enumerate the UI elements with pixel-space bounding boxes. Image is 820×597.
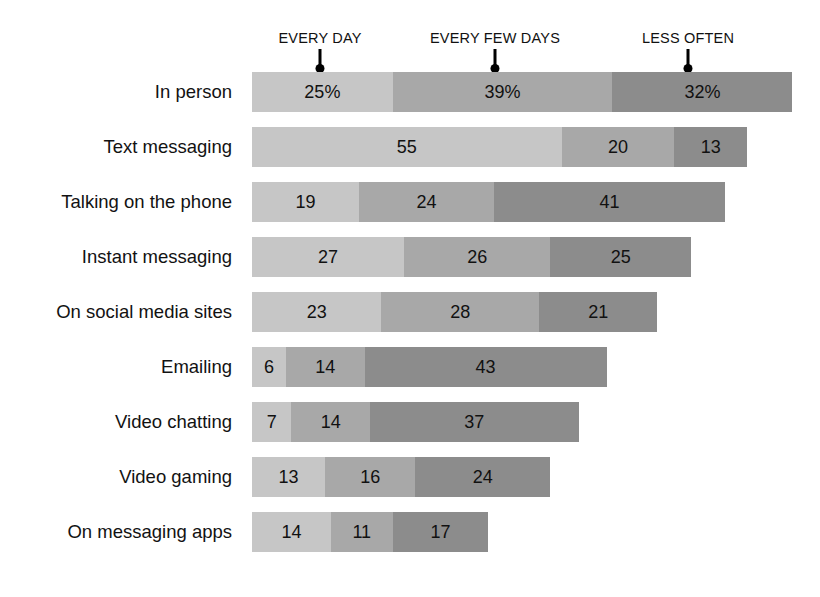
bar-segment-value: 32% [684,83,720,101]
stacked-bar: 552013 [252,127,747,167]
bar-segment-value: 25 [611,248,631,266]
row-label: On social media sites [0,292,242,332]
chart-row: Video chatting71437 [0,402,820,457]
bar-segment: 13 [674,127,747,167]
row-label: On messaging apps [0,512,242,552]
bar-segment: 14 [291,402,370,442]
bar-segment-value: 7 [267,413,277,431]
stacked-bar: 71437 [252,402,579,442]
legend-label-1: EVERY FEW DAYS [430,30,560,46]
bar-segment-value: 27 [318,248,338,266]
bar-segment: 19 [252,182,359,222]
bar-segment: 24 [415,457,550,497]
bar-segment: 16 [325,457,415,497]
bar-segment: 27 [252,237,404,277]
row-label: Text messaging [0,127,242,167]
stacked-bar: 141117 [252,512,488,552]
stacked-bar-chart: EVERY DAYEVERY FEW DAYSLESS OFTEN In per… [0,0,820,597]
bar-segment: 14 [286,347,365,387]
bar-segment: 11 [331,512,393,552]
bar-segment: 17 [393,512,489,552]
bar-segment-value: 16 [360,468,380,486]
bar-segment-value: 19 [295,193,315,211]
bar-segment: 21 [539,292,657,332]
chart-row: On messaging apps141117 [0,512,820,567]
stacked-bar: 192441 [252,182,725,222]
bar-segment: 39% [393,72,613,112]
bar-segment-value: 41 [599,193,619,211]
row-label: Instant messaging [0,237,242,277]
bar-segment-value: 20 [608,138,628,156]
legend-label-0: EVERY DAY [278,30,361,46]
row-label-text: On social media sites [56,301,232,323]
bar-segment-value: 37 [464,413,484,431]
bar-segment: 25 [550,237,691,277]
bar-segment: 26 [404,237,550,277]
bar-segment-value: 43 [476,358,496,376]
bar-segment-value: 14 [315,358,335,376]
legend-label-2: LESS OFTEN [642,30,734,46]
chart-row: Video gaming131624 [0,457,820,512]
bar-segment: 32% [612,72,792,112]
row-label: Video chatting [0,402,242,442]
bar-segment-value: 13 [279,468,299,486]
bar-segment: 43 [365,347,607,387]
chart-row: Emailing61443 [0,347,820,402]
chart-row: Text messaging552013 [0,127,820,182]
bar-segment-value: 24 [417,193,437,211]
chart-row: Talking on the phone192441 [0,182,820,237]
row-label-text: In person [155,81,232,103]
row-label-text: On messaging apps [67,521,232,543]
chart-legend: EVERY DAYEVERY FEW DAYSLESS OFTEN [0,0,820,72]
row-label: In person [0,72,242,112]
bar-segment: 20 [562,127,675,167]
bar-segment: 28 [381,292,539,332]
bar-segment-value: 55 [397,138,417,156]
row-label: Talking on the phone [0,182,242,222]
bar-segment: 25% [252,72,393,112]
bar-segment: 13 [252,457,325,497]
chart-row: In person25%39%32% [0,72,820,127]
row-label-text: Emailing [161,356,232,378]
bar-segment-value: 13 [701,138,721,156]
row-label-text: Text messaging [103,136,232,158]
row-label: Video gaming [0,457,242,497]
bar-segment-value: 24 [473,468,493,486]
bar-segment-value: 39% [485,83,521,101]
bar-segment-value: 17 [431,523,451,541]
bar-segment: 14 [252,512,331,552]
stacked-bar: 232821 [252,292,657,332]
chart-row: On social media sites232821 [0,292,820,347]
bar-segment: 41 [494,182,725,222]
chart-rows: In person25%39%32%Text messaging552013Ta… [0,72,820,567]
bar-segment: 7 [252,402,291,442]
stacked-bar: 131624 [252,457,550,497]
row-label: Emailing [0,347,242,387]
row-label-text: Talking on the phone [61,191,232,213]
stacked-bar: 61443 [252,347,607,387]
row-label-text: Instant messaging [82,246,232,268]
chart-row: Instant messaging272625 [0,237,820,292]
bar-segment-value: 28 [450,303,470,321]
bar-segment-value: 11 [352,523,371,541]
bar-segment: 24 [359,182,494,222]
bar-segment: 23 [252,292,381,332]
bar-segment-value: 23 [307,303,327,321]
bar-segment-value: 6 [264,358,274,376]
bar-segment: 55 [252,127,562,167]
bar-segment-value: 14 [321,413,341,431]
bar-segment-value: 21 [588,303,608,321]
stacked-bar: 272625 [252,237,691,277]
bar-segment: 6 [252,347,286,387]
row-label-text: Video chatting [115,411,232,433]
bar-segment-value: 26 [467,248,487,266]
row-label-text: Video gaming [119,466,232,488]
bar-segment-value: 25% [304,83,340,101]
bar-segment-value: 14 [281,523,301,541]
bar-segment: 37 [370,402,578,442]
stacked-bar: 25%39%32% [252,72,792,112]
